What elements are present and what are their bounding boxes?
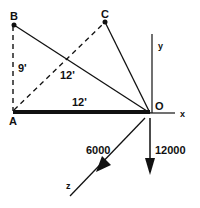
statics-diagram: B C A O y x z 9' 12' 12' 6000 12000 (0, 0, 200, 208)
label-b: B (10, 10, 18, 22)
dim-ao: 12' (72, 96, 87, 108)
label-c: C (101, 8, 109, 20)
label-z-axis: z (66, 181, 71, 191)
dashed-line-ac (14, 23, 104, 110)
label-a: A (9, 115, 17, 127)
label-x-axis: x (180, 109, 185, 119)
z-axis (70, 118, 145, 196)
label-y-axis: y (158, 41, 163, 51)
force-label-12000: 12000 (155, 144, 186, 156)
force-6000-arrowhead (96, 156, 111, 172)
dim-ab: 9' (18, 62, 27, 74)
point-c (103, 20, 108, 25)
dim-bo: 12' (60, 69, 75, 81)
point-b (12, 23, 17, 28)
force-12000-arrowhead (145, 158, 155, 175)
force-label-6000: 6000 (86, 144, 110, 156)
line-co (105, 22, 150, 113)
label-o: O (155, 100, 164, 112)
